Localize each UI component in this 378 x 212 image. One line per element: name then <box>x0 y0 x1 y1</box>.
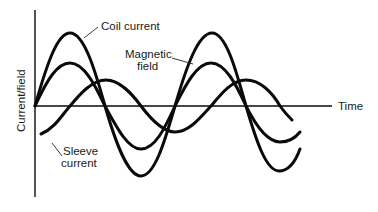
y-axis-label: Current/field <box>15 69 27 132</box>
time-axis-label: Time <box>338 100 363 112</box>
waveform-diagram: Coil current Magnetic field Sleeve curre… <box>0 0 378 212</box>
magnetic-field-label-line2: field <box>137 60 158 72</box>
magnetic-field-label-line1: Magnetic <box>125 48 172 60</box>
coil-current-leader <box>84 27 98 38</box>
sleeve-current-leader <box>52 143 62 156</box>
sleeve-current-label-line2: current <box>61 157 98 169</box>
coil-current-label: Coil current <box>101 20 161 32</box>
sleeve-current-label-line1: Sleeve <box>63 145 98 157</box>
